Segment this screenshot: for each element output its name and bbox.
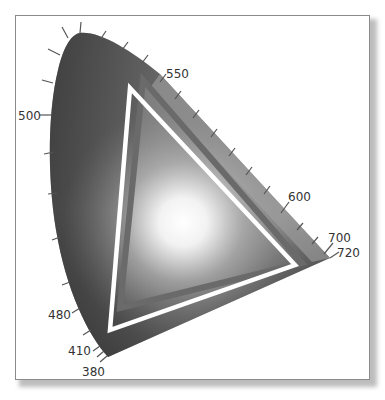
label-380: 380 [82,365,105,379]
label-600: 600 [288,190,311,204]
label-410: 410 [68,344,91,358]
label-480: 480 [48,308,71,322]
label-500: 500 [18,109,41,123]
label-720: 720 [337,246,360,260]
diagram-stage: 500 550 600 700 720 480 410 380 [0,0,385,400]
label-550: 550 [166,67,189,81]
label-700: 700 [328,231,351,245]
chromaticity-diagram: 500 550 600 700 720 480 410 380 [0,0,385,400]
